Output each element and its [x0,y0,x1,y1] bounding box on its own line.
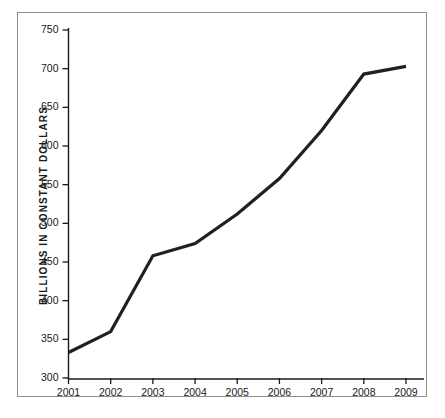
y-tick-label: 700 [25,62,59,74]
y-tick-label: 450 [25,255,59,267]
y-tick-label: 550 [25,178,59,190]
x-tick-label: 2008 [342,386,386,398]
line-chart-svg [0,0,445,418]
x-tick-label: 2001 [47,386,91,398]
x-tick-label: 2002 [89,386,133,398]
y-tick-label: 600 [25,139,59,151]
y-tick-label: 300 [25,371,59,383]
y-tick-label: 750 [25,23,59,35]
y-tick-label: 500 [25,216,59,228]
axes-group [69,28,425,379]
chart-figure: BILLIONS IN CONSTANT DOLLARS 30035040045… [0,0,445,418]
x-tick-label: 2004 [173,386,217,398]
y-tick-marks [63,30,69,378]
x-tick-label: 2005 [215,386,259,398]
x-tick-label: 2006 [257,386,301,398]
y-tick-label: 650 [25,100,59,112]
y-tick-label: 350 [25,332,59,344]
plot-area [0,0,445,418]
x-tick-label: 2007 [300,386,344,398]
x-tick-label: 2009 [384,386,428,398]
data-line-series [69,66,407,352]
x-tick-label: 2003 [131,386,175,398]
y-tick-label: 400 [25,294,59,306]
